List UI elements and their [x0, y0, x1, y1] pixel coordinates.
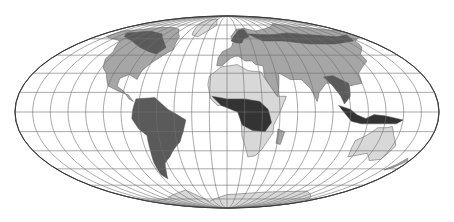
world-map [0, 0, 454, 222]
mollweide-map-canvas [0, 0, 454, 222]
